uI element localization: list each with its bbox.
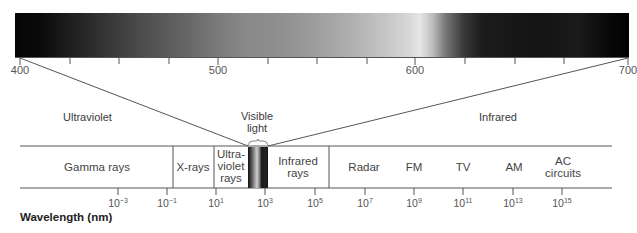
band-ac-circuits: AC circuits — [545, 155, 581, 179]
ac-line1: AC — [545, 155, 581, 167]
axis-tick-1e9: 109 — [406, 197, 422, 209]
uv-line2: violet — [217, 160, 245, 172]
ir-line1: Infrared — [278, 155, 318, 167]
band-am: AM — [505, 161, 522, 173]
axis-tick-1e1: 101 — [208, 197, 224, 209]
band-ultraviolet-rays: Ultra- violet rays — [217, 148, 245, 184]
region-infrared-label: Infrared — [479, 111, 517, 123]
band-x-rays: X-rays — [176, 161, 209, 173]
band-infrared-rays: Infrared rays — [278, 155, 318, 179]
region-visible-light-label: Visible light — [241, 110, 273, 134]
axis-tick-1e5: 105 — [307, 197, 323, 209]
visible-label-line2: light — [241, 122, 273, 134]
axis-tick-1e-3: 10−3 — [108, 197, 128, 209]
visible-light-band — [248, 147, 268, 188]
ac-line2: circuits — [545, 167, 581, 179]
axis-title: Wavelength (nm) — [20, 211, 112, 223]
spectrum-tick-400: 400 — [11, 64, 29, 76]
axis-tick-1e-1: 10−1 — [157, 197, 177, 209]
spectrum-tick-600: 600 — [406, 64, 424, 76]
ir-line2: rays — [278, 167, 318, 179]
spectrum-tick-500: 500 — [209, 64, 227, 76]
uv-line3: rays — [217, 172, 245, 184]
visible-light-brace — [248, 139, 268, 145]
axis-tick-1e13: 1013 — [503, 197, 522, 209]
uv-line1: Ultra- — [217, 148, 245, 160]
spectrum-tick-700: 700 — [619, 64, 637, 76]
band-tv: TV — [456, 161, 471, 173]
band-gamma-rays: Gamma rays — [64, 161, 130, 173]
axis-tick-1e11: 1011 — [454, 197, 473, 209]
axis-tick-1e3: 103 — [257, 197, 273, 209]
band-fm: FM — [406, 161, 423, 173]
visible-label-line1: Visible — [241, 110, 273, 122]
axis-tick-1e7: 107 — [357, 197, 373, 209]
band-radar: Radar — [348, 161, 379, 173]
region-ultraviolet-label: Ultraviolet — [63, 111, 112, 123]
axis-tick-1e15: 1015 — [552, 197, 571, 209]
